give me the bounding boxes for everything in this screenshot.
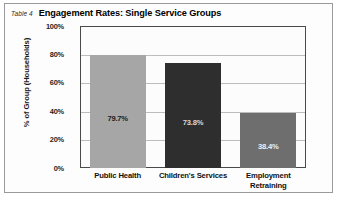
x-axis-labels: Public HealthChildren's ServicesEmployme…: [80, 171, 306, 190]
plot-area: [80, 26, 306, 168]
table-number-label: Table 4: [11, 10, 33, 17]
y-tick-label: 0%: [18, 164, 64, 173]
y-tick-label: 80%: [18, 50, 64, 59]
gridline: [81, 112, 305, 113]
gridline: [81, 140, 305, 141]
x-axis-category-label: Public Health: [82, 171, 154, 190]
chart-title: Engagement Rates: Single Service Groups: [39, 8, 221, 18]
x-axis-category-label: Employment Retraining: [232, 171, 304, 190]
y-tick-label: 60%: [18, 78, 64, 87]
x-axis-category-label: Children's Services: [157, 171, 229, 190]
y-tick-label: 40%: [18, 107, 64, 116]
y-tick-label: 20%: [18, 135, 64, 144]
gridline: [81, 55, 305, 56]
y-tick-label: 100%: [18, 22, 64, 31]
figure-panel: Table 4 Engagement Rates: Single Service…: [4, 3, 333, 193]
gridline: [81, 83, 305, 84]
figure-caption: Table 4 Engagement Rates: Single Service…: [11, 8, 221, 18]
